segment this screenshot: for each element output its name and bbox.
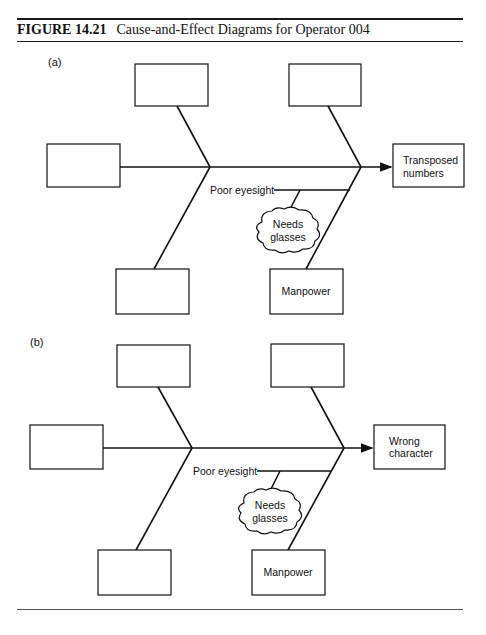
manpower-label: Manpower xyxy=(281,285,331,297)
effect-line-2: character xyxy=(389,447,433,459)
bone-top-left xyxy=(177,106,210,167)
manpower-label: Manpower xyxy=(263,566,313,578)
cause-box-left xyxy=(30,425,103,469)
cause-box-bottom-left xyxy=(116,269,189,314)
bone-manpower xyxy=(288,448,344,550)
bone-top-right xyxy=(311,387,344,448)
cloud-line-2: glasses xyxy=(270,231,306,243)
panel-label-a: (a) xyxy=(48,56,61,68)
effect-line-1: Wrong xyxy=(389,435,420,447)
cause-box-left xyxy=(47,144,120,187)
diagram-a: (a) Transposed numbers Manpower Poor eye… xyxy=(47,56,464,314)
sub-cause-label: Poor eyesight xyxy=(193,465,257,477)
cause-box-bottom-left xyxy=(98,550,171,595)
cause-box-top-left xyxy=(135,64,208,106)
panel-label-b: (b) xyxy=(30,336,43,348)
bone-bottom-left xyxy=(154,167,210,269)
cause-box-top-right xyxy=(271,344,344,387)
cloud-line-1: Needs xyxy=(255,499,285,511)
diagram-b: (b) Wrong character Manpower Poor eyesig… xyxy=(30,336,445,595)
bone-bottom-left xyxy=(136,448,192,550)
effect-line-2: numbers xyxy=(403,167,444,179)
sub-cause-label: Poor eyesight xyxy=(210,184,274,196)
cloud-line-1: Needs xyxy=(273,218,303,230)
cause-box-top-right xyxy=(289,64,361,106)
bone-top-right xyxy=(328,106,361,167)
fishbone-diagrams: (a) Transposed numbers Manpower Poor eye… xyxy=(0,0,486,635)
cloud-line-2: glasses xyxy=(252,512,288,524)
bone-top-left xyxy=(158,387,192,448)
cloud-shape xyxy=(257,207,320,253)
effect-line-1: Transposed xyxy=(403,154,458,166)
cause-box-top-left xyxy=(117,345,190,387)
cloud-shape xyxy=(239,488,302,534)
